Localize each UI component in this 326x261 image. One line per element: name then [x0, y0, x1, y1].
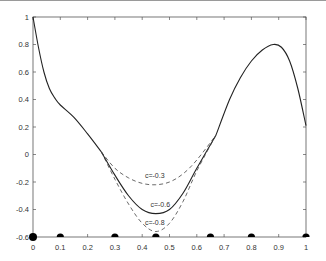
- x-tick-label: 0.5: [164, 243, 174, 252]
- y-tick-label: -0.6: [16, 233, 29, 242]
- curve-label: c=-0.8: [145, 219, 165, 226]
- x-tick-label: 0.8: [246, 243, 256, 252]
- x-tick-label: 0.7: [219, 243, 229, 252]
- curve-label: c=-0.3: [145, 172, 165, 179]
- y-tick-label: 0.8: [19, 40, 29, 49]
- x-tick-label: 1: [304, 243, 308, 252]
- x-tick-label: 0.6: [192, 243, 202, 252]
- x-axis-ticks: 00.10.20.30.40.50.60.70.80.91: [31, 17, 308, 252]
- node-marker: [302, 233, 309, 237]
- x-tick-label: 0.3: [110, 243, 120, 252]
- x-tick-label: 0.9: [273, 243, 283, 252]
- x-tick-label: 0.4: [137, 243, 147, 252]
- y-tick-label: -0.4: [16, 205, 29, 214]
- y-tick-label: 0.6: [19, 68, 29, 77]
- y-tick-label: 1: [25, 13, 29, 22]
- node-marker-lower: [29, 237, 37, 241]
- x-tick-label: 0: [31, 243, 35, 252]
- series-base-curve: [33, 17, 101, 152]
- x-tick-label: 0.2: [82, 243, 92, 252]
- series-base-curve-right-: [216, 44, 306, 135]
- y-tick-label: -0.2: [16, 178, 29, 187]
- curve-annotations: c=-0.3c=-0.6c=-0.8: [145, 172, 170, 226]
- node-marker: [248, 233, 255, 237]
- series-c-0-8: [101, 135, 216, 231]
- line-chart: 00.10.20.30.40.50.60.70.80.91 10.80.60.4…: [0, 0, 326, 261]
- curve-label: c=-0.6: [150, 201, 170, 208]
- y-tick-label: 0.4: [19, 95, 29, 104]
- node-marker: [29, 233, 37, 237]
- y-tick-label: 0.2: [19, 123, 29, 132]
- node-marker: [57, 233, 64, 237]
- y-tick-label: 0: [25, 150, 29, 159]
- x-tick-label: 0.1: [55, 243, 65, 252]
- series-lines: [33, 17, 306, 232]
- node-marker: [111, 233, 118, 237]
- node-marker: [207, 233, 214, 237]
- node-marker: [152, 233, 159, 237]
